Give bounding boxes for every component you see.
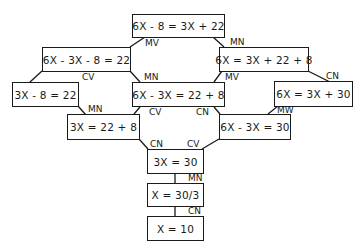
edge-label: CV <box>187 140 199 149</box>
edge-label: CN <box>326 72 339 81</box>
edge-label: MW <box>277 106 294 115</box>
node-solution: X = 10 <box>147 216 204 241</box>
edge-label: CV <box>82 73 94 82</box>
edge-label: CN <box>188 207 201 216</box>
edge-label: MV <box>145 39 159 48</box>
edge-label: CN <box>196 108 209 117</box>
node-move-variable: 6X - 3X - 8 = 22 <box>42 47 131 72</box>
edge-label: MN <box>230 38 245 47</box>
node-text: 6X - 3X = 22 + 8 <box>132 89 224 101</box>
node-text: 3X - 8 = 22 <box>14 89 76 101</box>
node-text: 6X - 8 = 3X + 22 <box>132 20 224 32</box>
node-left-lower: 3X = 22 + 8 <box>67 114 140 140</box>
edge-label: MV <box>225 73 239 82</box>
node-combine-number-right: 6X = 3X + 30 <box>274 81 353 107</box>
node-text: X = 30/3 <box>152 189 200 201</box>
node-combined: 3X = 30 <box>147 149 204 174</box>
node-right-lower: 6X - 3X = 30 <box>219 114 291 140</box>
edge-label: MN <box>144 73 159 82</box>
edge-label: CV <box>149 108 161 117</box>
node-move-number: 6X = 3X + 22 + 8 <box>219 47 309 72</box>
node-combine-variable-left: 3X - 8 = 22 <box>12 82 79 107</box>
node-text: X = 10 <box>157 223 194 235</box>
node-text: 6X = 3X + 30 <box>276 88 350 100</box>
edge-label: MN <box>88 105 103 114</box>
edge-label: CN <box>150 140 163 149</box>
edge-label: MN <box>188 174 203 183</box>
node-text: 6X - 3X - 8 = 22 <box>43 54 130 66</box>
node-text: 6X - 3X = 30 <box>220 121 289 133</box>
node-equation-start: 6X - 8 = 3X + 22 <box>132 14 225 38</box>
node-text: 3X = 22 + 8 <box>70 121 137 133</box>
node-text: 3X = 30 <box>153 156 197 168</box>
node-text: 6X = 3X + 22 + 8 <box>215 54 312 66</box>
node-center: 6X - 3X = 22 + 8 <box>132 82 225 107</box>
node-divide: X = 30/3 <box>147 183 204 207</box>
